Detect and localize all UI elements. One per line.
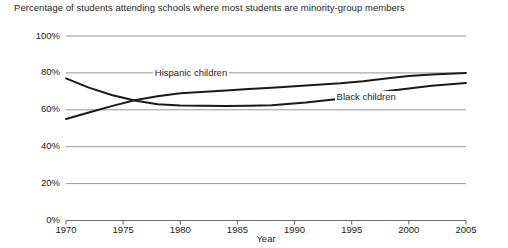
x-axis-title: Year [236,233,296,244]
y-tick-label-100%: 100% [8,30,60,41]
x-tick-label-1970: 1970 [46,224,86,235]
x-tick-label-2005: 2005 [446,224,486,235]
x-tick-label-1975: 1975 [103,224,143,235]
x-tick-label-2000: 2000 [389,224,429,235]
chart-figure: Percentage of students attending schools… [0,0,508,248]
y-tick-label-60%: 60% [8,103,60,114]
series-annotation-hispanic-children: Hispanic children [153,67,229,78]
y-tick-label-40%: 40% [8,140,60,151]
series-line-hispanic-children [66,73,466,119]
y-tick-label-20%: 20% [8,177,60,188]
chart-plot-area [0,0,508,248]
y-tick-label-80%: 80% [8,66,60,77]
x-tick-label-1995: 1995 [332,224,372,235]
x-tick-label-1980: 1980 [160,224,200,235]
series-annotation-black-children: Black children [335,91,398,102]
series-lines-group [66,73,466,119]
gridlines-group [66,36,466,184]
